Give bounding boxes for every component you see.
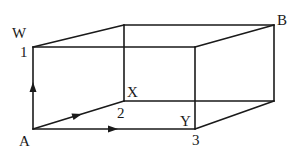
edge-bottom-right-depth [195, 101, 274, 129]
edge-top-left-depth [33, 25, 124, 47]
arrow-up-icon [30, 82, 37, 92]
label-w: W [12, 25, 27, 41]
label-1: 1 [20, 44, 28, 60]
label-x: X [127, 84, 138, 100]
arrow-diagonal-icon [72, 114, 83, 121]
label-y: Y [180, 113, 191, 129]
box-diagram: W 1 X 2 A Y 3 B [0, 0, 295, 149]
label-2: 2 [117, 105, 125, 121]
label-b: B [277, 12, 287, 28]
arrow-right-icon [108, 126, 118, 133]
label-a: A [19, 133, 30, 149]
edge-top-right-depth [195, 25, 274, 47]
label-3: 3 [192, 132, 200, 148]
